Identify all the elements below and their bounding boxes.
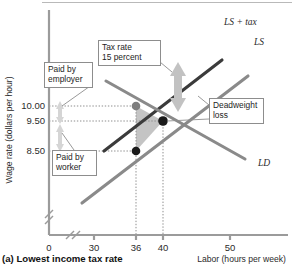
curve-ls xyxy=(82,76,248,203)
caption-tag: (a) xyxy=(2,253,14,264)
point-employer-wage xyxy=(132,102,141,111)
tax-wedge-arrow xyxy=(170,62,186,112)
x-axis-title: Labor (hours per week) xyxy=(197,254,286,264)
figure-caption: (a) Lowest income tax rate xyxy=(2,253,123,264)
y-tick-label-2: 8.50 xyxy=(27,145,46,156)
x-tick-label-2: 36 xyxy=(131,242,142,253)
y-tick-label-1: 9.50 xyxy=(27,115,46,126)
callout-paid-by-worker: Paid by worker xyxy=(52,150,97,176)
callout-deadweight-loss: Deadweight loss xyxy=(209,98,264,124)
y-axis-title: Wage rate (dollars per hour) xyxy=(4,76,14,183)
y-tick-label-0: 10.00 xyxy=(21,100,45,111)
figure-panel: 10.00 9.50 8.50 0 30 36 40 50 LS + tax L… xyxy=(0,0,292,265)
callout-paid-by-employer: Paid by employer xyxy=(44,62,93,88)
caption-text: Lowest income tax rate xyxy=(16,253,122,264)
point-worker-wage xyxy=(132,147,141,156)
point-no-tax-equilibrium xyxy=(158,116,168,126)
callout-tax-rate: Tax rate 15 percent xyxy=(98,40,161,66)
leader-worker xyxy=(62,133,74,150)
x-tick-label-4: 50 xyxy=(225,242,236,253)
curve-label-ld: LD xyxy=(257,158,270,168)
curve-label-ls-plus-tax: LS + tax xyxy=(223,17,258,27)
leader-dwl-upper xyxy=(198,96,209,105)
curve-label-ls: LS xyxy=(253,37,264,47)
x-tick-label-3: 40 xyxy=(158,242,169,253)
x-tick-label-1: 30 xyxy=(89,242,100,253)
leader-taxrate xyxy=(160,62,172,72)
paid-by-worker-arrow xyxy=(56,124,64,152)
x-tick-label-0: 0 xyxy=(46,242,51,253)
